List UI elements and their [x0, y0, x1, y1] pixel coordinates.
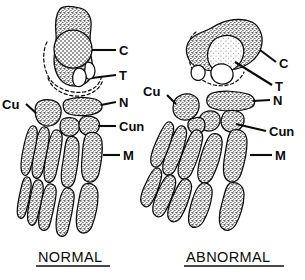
- label-cu-abnormal: Cu: [143, 84, 160, 99]
- bone-accessory-ossicle-abnormal: [191, 65, 205, 80]
- label-c-abnormal: C: [279, 56, 289, 71]
- bone-talar-head-abnormal: [211, 64, 233, 84]
- caption-abnormal: ABNORMAL: [186, 249, 271, 265]
- bone-cuneiform-medial-normal: [60, 118, 80, 137]
- bone-talus-head-normal: [73, 68, 87, 87]
- label-c-normal: C: [119, 43, 129, 58]
- bone-navicular-normal: [63, 98, 102, 116]
- bone-cuneiform-intermediate-abnormal: [221, 110, 244, 132]
- label-cu-normal: Cu: [2, 97, 19, 112]
- bone-cuboid-abnormal: [173, 94, 199, 120]
- label-cun-abnormal: Cun: [269, 124, 294, 139]
- caption-normal: NORMAL: [38, 249, 102, 265]
- bone-cuboid-normal: [35, 100, 61, 126]
- label-m-normal: M: [123, 148, 134, 163]
- bone-metatarsal-1-normal: [81, 132, 102, 182]
- label-cun-normal: Cun: [119, 119, 144, 134]
- label-t-abnormal: T: [275, 79, 283, 94]
- foot-skeleton-figure: C T N Cu Cun M NORMAL: [0, 0, 305, 280]
- figure-container: C T N Cu Cun M NORMAL: [0, 0, 305, 280]
- bone-navicular-abnormal: [207, 91, 255, 111]
- label-t-normal: T: [119, 68, 127, 83]
- label-n-normal: N: [119, 95, 128, 110]
- label-n-abnormal: N: [273, 93, 282, 108]
- label-m-abnormal: M: [275, 148, 286, 163]
- leader-line-n-abnormal: [253, 100, 270, 101]
